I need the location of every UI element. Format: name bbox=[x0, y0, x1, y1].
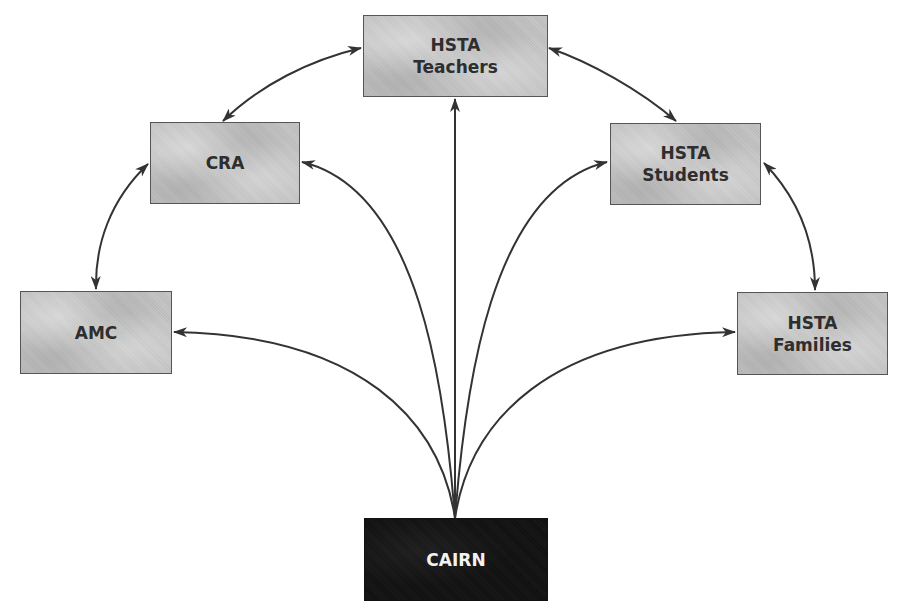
arrow-students-families bbox=[764, 163, 815, 290]
node-label-line1: HSTA bbox=[661, 142, 711, 164]
node-hsta-students: HSTA Students bbox=[610, 123, 761, 205]
arrow-cairn-to-families bbox=[455, 332, 735, 518]
arrow-cairn-to-amc bbox=[174, 332, 455, 518]
arrow-cairn-to-students bbox=[455, 162, 607, 518]
node-hsta-teachers: HSTA Teachers bbox=[363, 15, 548, 97]
arrow-cairn-to-cra bbox=[302, 162, 455, 518]
node-label-line1: CRA bbox=[206, 152, 245, 174]
node-label-line2: Families bbox=[773, 334, 852, 356]
arrow-teachers-students bbox=[549, 48, 676, 121]
node-label-line1: HSTA bbox=[788, 312, 838, 334]
node-label-line2: Teachers bbox=[413, 56, 498, 78]
node-label-line1: CAIRN bbox=[426, 549, 485, 571]
node-amc: AMC bbox=[20, 291, 172, 374]
node-label-line1: AMC bbox=[75, 322, 118, 344]
node-cra: CRA bbox=[150, 122, 300, 204]
arrow-cra-teachers bbox=[223, 48, 361, 121]
node-label-line2: Students bbox=[642, 164, 729, 186]
node-cairn: CAIRN bbox=[364, 518, 548, 601]
arrow-cra-amc bbox=[96, 164, 148, 289]
node-label-line1: HSTA bbox=[431, 34, 481, 56]
node-hsta-families: HSTA Families bbox=[737, 292, 888, 375]
